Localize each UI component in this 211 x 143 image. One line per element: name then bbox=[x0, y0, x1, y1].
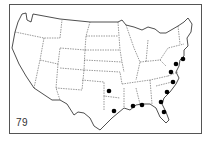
marker-dot bbox=[162, 110, 167, 115]
marker-dot bbox=[131, 104, 136, 109]
state-boundaries bbox=[15, 20, 184, 110]
marker-dot bbox=[165, 90, 170, 95]
marker-group bbox=[107, 57, 186, 115]
marker-dot bbox=[169, 70, 174, 75]
figure-number: 79 bbox=[16, 117, 28, 128]
marker-dot bbox=[159, 100, 164, 105]
marker-dot bbox=[140, 103, 145, 108]
marker-dot bbox=[171, 80, 176, 85]
marker-dot bbox=[112, 109, 117, 114]
us-map bbox=[0, 0, 211, 143]
marker-dot bbox=[107, 89, 112, 94]
marker-dot bbox=[174, 62, 179, 67]
marker-dot bbox=[181, 57, 186, 62]
